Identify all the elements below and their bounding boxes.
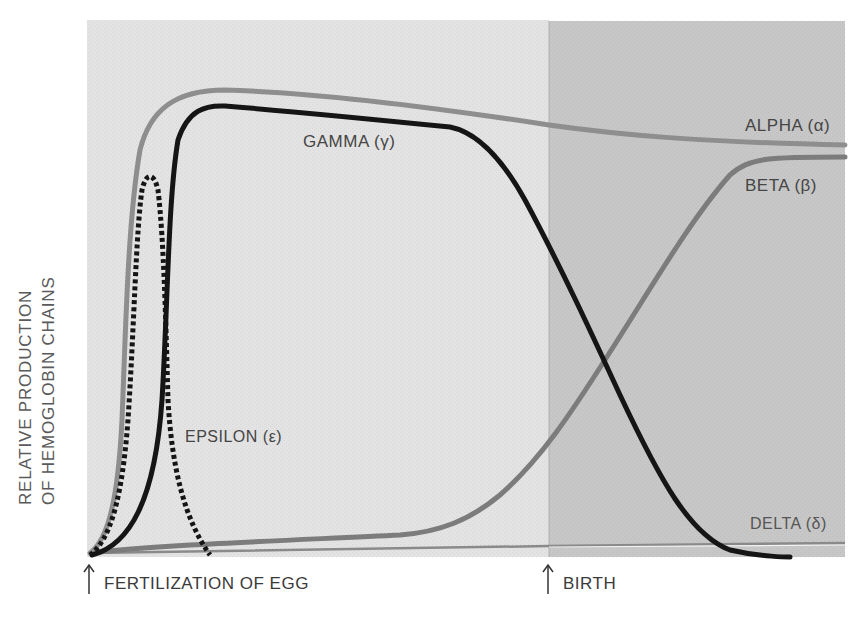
hemoglobin-chart — [0, 0, 859, 624]
delta-label: DELTA (δ) — [750, 515, 827, 533]
gamma-label: GAMMA (γ) — [303, 132, 395, 152]
y-axis-label: RELATIVE PRODUCTION OF HEMOGLOBIN CHAINS — [14, 276, 60, 505]
alpha-label: ALPHA (α) — [745, 116, 830, 136]
birth-arrow-icon — [542, 563, 554, 595]
beta-label: BETA (β) — [745, 176, 817, 196]
fertilization-label: FERTILIZATION OF EGG — [104, 574, 309, 594]
birth-label: BIRTH — [563, 574, 616, 594]
epsilon-label: EPSILON (ε) — [185, 428, 282, 446]
y-axis-label-line2: OF HEMOGLOBIN CHAINS — [37, 276, 60, 505]
fertilization-arrow-icon — [83, 563, 95, 595]
y-axis-label-line1: RELATIVE PRODUCTION — [14, 276, 37, 505]
